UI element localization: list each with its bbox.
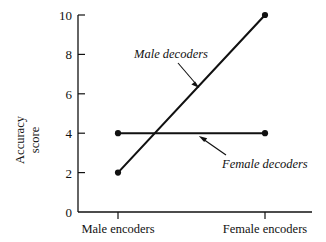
series-female-decoders [115, 130, 268, 136]
x-tick-labels: Male encoders Female encoders [81, 222, 307, 236]
y-axis-title-line1: Accuracy [13, 115, 27, 164]
x-tick-label-male-encoders: Male encoders [81, 222, 154, 236]
chart-canvas: 10 8 6 4 2 0 Male encoders Female encode… [0, 0, 326, 242]
y-tick-marks [78, 15, 85, 173]
series-male-decoders [115, 12, 268, 176]
y-tick-label-10: 10 [59, 8, 72, 23]
accuracy-score-line-chart: 10 8 6 4 2 0 Male encoders Female encode… [0, 0, 326, 242]
y-axis-title: Accuracy score [13, 115, 42, 164]
annotation-female-decoders-leader [203, 139, 226, 155]
x-tick-label-female-encoders: Female encoders [223, 222, 307, 236]
data-point-male-decoders-male-encoders [115, 170, 121, 176]
y-tick-label-4: 4 [66, 126, 73, 141]
data-point-female-decoders-male-encoders [115, 130, 121, 136]
annotation-male-decoders-label: Male decoders [133, 47, 208, 61]
x-tick-marks [118, 212, 265, 219]
y-axis-title-line2: score [28, 126, 42, 153]
y-tick-label-2: 2 [66, 166, 73, 181]
y-tick-label-8: 8 [66, 47, 73, 62]
axes-group [78, 15, 312, 212]
annotation-female-decoders-label: Female decoders [221, 157, 308, 171]
y-tick-label-6: 6 [66, 87, 73, 102]
y-tick-labels: 10 8 6 4 2 0 [59, 8, 73, 220]
annotation-male-decoders-arrowhead [191, 81, 199, 88]
y-tick-label-0: 0 [66, 205, 73, 220]
data-point-male-decoders-female-encoders [262, 12, 268, 18]
data-point-female-decoders-female-encoders [262, 130, 268, 136]
annotation-male-decoders-leader [178, 63, 196, 84]
series-male-decoders-line [118, 15, 265, 173]
annotation-male-decoders: Male decoders [133, 47, 208, 88]
annotation-female-decoders: Female decoders [199, 136, 308, 171]
